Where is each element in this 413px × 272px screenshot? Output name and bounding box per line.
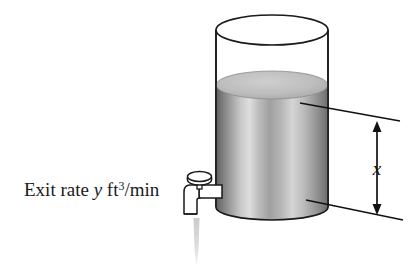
tank-top-rim	[216, 15, 328, 45]
liquid-surface	[216, 71, 328, 99]
figure-container: x Exit rate y ft3/min	[0, 0, 413, 272]
exit-rate-prefix: Exit rate	[24, 179, 94, 200]
water-stream	[194, 218, 200, 266]
exit-rate-unit-rest: /min	[124, 179, 159, 200]
tank-diagram: x Exit rate y ft3/min	[0, 0, 413, 272]
cylindrical-tank	[216, 15, 328, 220]
exit-rate-unit-base: ft	[102, 179, 119, 200]
dimension-arrowhead-up	[373, 121, 382, 132]
valve-knob-top	[188, 172, 212, 182]
exit-rate-text: Exit rate y ft3/min	[24, 179, 160, 200]
exit-rate-label: Exit rate y ft3/min	[24, 179, 160, 200]
dimension-label-x: x	[372, 158, 382, 179]
exit-rate-variable: y	[92, 179, 103, 200]
